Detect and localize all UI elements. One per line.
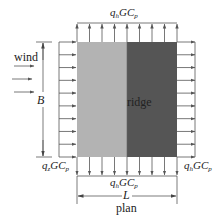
wind-pressure-plan-diagram: wind B ridge qhGCp qzGCp qhGCp qhGCp [0,0,223,222]
top-pressure-label: qhGCp [110,6,138,20]
ridge-label: ridge [127,95,152,109]
leeward-pressure-arrows [177,42,195,157]
top-pressure-arrows [77,23,177,42]
plan-caption: plan [116,201,137,215]
bottom-pressure-arrows [77,157,177,176]
dimension-B-label: B [37,93,45,107]
windward-pressure-label: qzGCp [42,159,70,173]
wind-label: wind [14,50,38,64]
dimension-L-label: L [122,188,130,202]
windward-pressure-arrows [59,42,76,157]
leeward-pressure-label: qhGCp [184,159,212,173]
windward-roof-half [77,42,127,157]
wind-arrows [12,66,34,92]
